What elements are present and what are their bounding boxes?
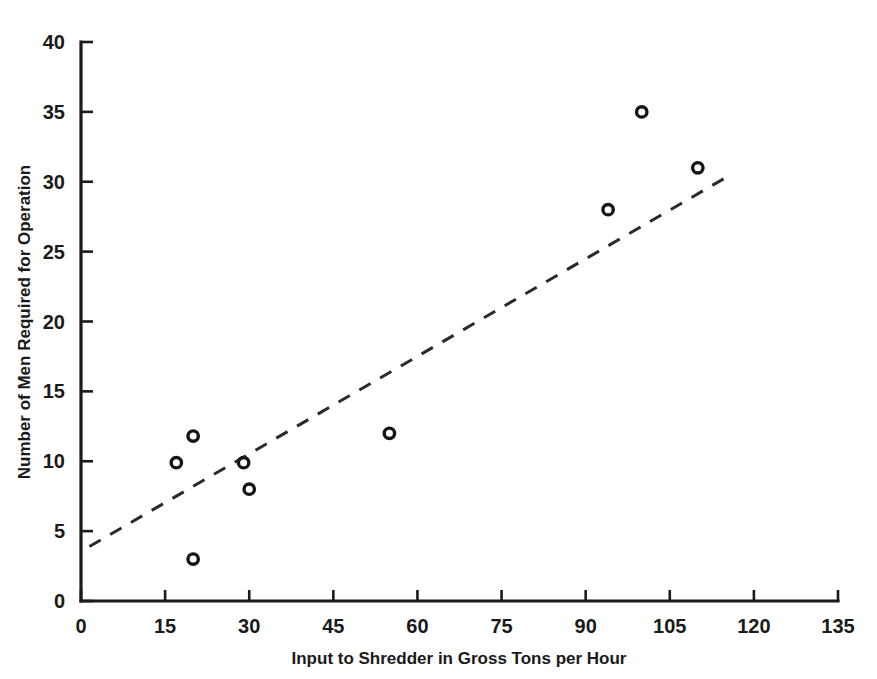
x-tick-label: 60 [406, 615, 428, 637]
y-tick-label: 20 [43, 311, 65, 333]
y-tick-label: 25 [43, 241, 65, 263]
y-tick-label: 35 [43, 101, 65, 123]
data-point-marker [693, 163, 703, 173]
x-axis-ticks [81, 590, 838, 601]
x-tick-label: 75 [490, 615, 512, 637]
data-point-marker [603, 205, 613, 215]
x-axis-title: Input to Shredder in Gross Tons per Hour [292, 649, 627, 668]
y-tick-label: 15 [43, 380, 65, 402]
x-tick-label: 135 [821, 615, 854, 637]
x-tick-label: 120 [737, 615, 770, 637]
y-tick-label: 5 [54, 520, 65, 542]
chart-figure: 0510152025303540 0153045607590105120135 … [0, 0, 877, 679]
x-axis-tick-labels: 0153045607590105120135 [75, 615, 854, 637]
y-tick-label: 30 [43, 171, 65, 193]
plot-axes [81, 42, 838, 601]
trend-line-group [89, 178, 725, 547]
regression-trend-line [89, 178, 725, 547]
x-tick-label: 105 [653, 615, 686, 637]
data-point-marker [244, 484, 254, 494]
x-tick-label: 0 [75, 615, 86, 637]
data-point-marker [171, 457, 181, 467]
data-point-marker [384, 428, 394, 438]
scatter-plot-svg: 0510152025303540 0153045607590105120135 … [0, 0, 877, 679]
y-axis-ticks [81, 42, 93, 601]
data-point-marker [238, 457, 248, 467]
data-point-marker [188, 431, 198, 441]
x-tick-label: 30 [238, 615, 260, 637]
y-axis-tick-labels: 0510152025303540 [43, 31, 65, 612]
y-tick-label: 40 [43, 31, 65, 53]
y-axis-title: Number of Men Required for Operation [15, 165, 34, 480]
y-tick-label: 0 [54, 590, 65, 612]
data-point-marker [637, 107, 647, 117]
data-point-marker [188, 554, 198, 564]
y-tick-label: 10 [43, 450, 65, 472]
data-points-group [171, 107, 703, 565]
x-tick-label: 45 [322, 615, 344, 637]
x-tick-label: 90 [575, 615, 597, 637]
x-tick-label: 15 [154, 615, 176, 637]
